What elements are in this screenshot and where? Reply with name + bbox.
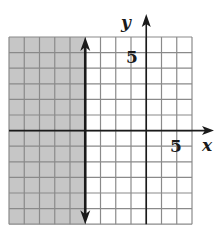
coordinate-graph: y 5 5 x	[0, 0, 224, 231]
x-axis-label: x	[201, 135, 213, 155]
x-tick-label-5: 5	[170, 136, 182, 156]
y-axis-label: y	[120, 12, 132, 32]
y-tick-label-5: 5	[126, 47, 138, 67]
